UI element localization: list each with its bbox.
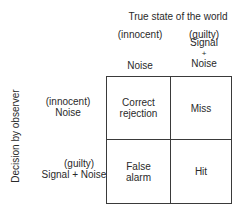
cell-text: Miss xyxy=(191,103,212,114)
row-label: Noise xyxy=(38,107,98,118)
cell-text: Hit xyxy=(195,166,207,177)
row-qualifier: (guilty) xyxy=(38,158,110,169)
row-label: Signal + Noise xyxy=(38,169,110,180)
cell-text: rejection xyxy=(120,108,158,119)
column-qualifier-innocent: (innocent) xyxy=(112,29,168,40)
column-label-noise: Noise xyxy=(112,60,168,71)
column-label-line: Noise xyxy=(176,59,232,70)
cell-text: alarm xyxy=(126,172,151,183)
row-axis-title: Decision by observer xyxy=(10,89,21,182)
column-label-line: Signal xyxy=(176,38,232,49)
row-qualifier: (innocent) xyxy=(38,96,98,107)
cell-hit: Hit xyxy=(171,140,231,203)
row-label-signal-noise: (guilty) Signal + Noise xyxy=(38,158,110,180)
cell-false-alarm: False alarm xyxy=(107,140,170,203)
row-label-noise: (innocent) Noise xyxy=(38,96,98,118)
column-axis-title: True state of the world xyxy=(118,11,238,22)
cell-text: Correct xyxy=(120,97,158,108)
cell-text: False xyxy=(126,161,151,172)
cell-miss: Miss xyxy=(171,77,231,139)
outcome-grid: Correct rejection Miss False alarm Hit xyxy=(106,76,232,204)
column-label-signal-noise: Signal + Noise xyxy=(176,38,232,70)
cell-correct-rejection: Correct rejection xyxy=(107,77,170,139)
